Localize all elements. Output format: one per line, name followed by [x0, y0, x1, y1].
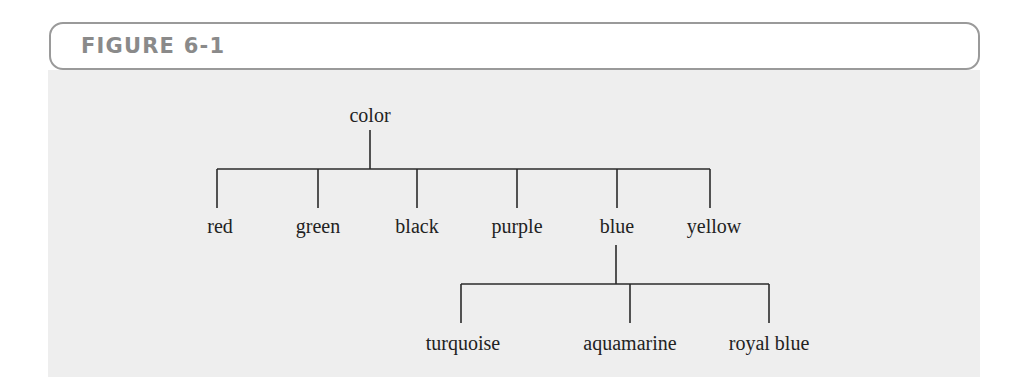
hierarchy-diagram: color red green black purple blue yellow…: [0, 0, 1025, 390]
node-black: black: [395, 215, 438, 237]
node-turquoise: turquoise: [426, 332, 501, 355]
node-aquamarine: aquamarine: [583, 332, 676, 355]
node-royal-blue: royal blue: [729, 332, 810, 355]
node-green: green: [296, 215, 340, 238]
node-yellow: yellow: [687, 215, 742, 238]
node-purple: purple: [491, 215, 542, 238]
node-color: color: [349, 104, 390, 126]
node-blue: blue: [600, 215, 635, 237]
node-red: red: [207, 215, 233, 237]
